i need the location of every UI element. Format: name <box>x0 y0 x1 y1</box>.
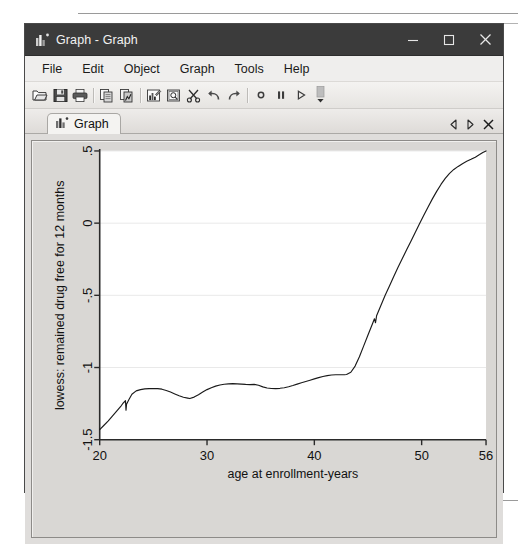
x-tick-label: 30 <box>200 448 214 463</box>
chevron-left-icon[interactable] <box>449 119 458 130</box>
x-axis-ticks <box>100 440 486 445</box>
bar-chart-icon <box>30 33 56 46</box>
y-tick-label: -1.5 <box>80 429 95 451</box>
tab-strip: Graph <box>25 109 503 134</box>
x-tick-label: 50 <box>414 448 428 463</box>
menu-item-object[interactable]: Object <box>114 59 170 79</box>
tab-strip-nav <box>449 119 503 133</box>
window-title: Graph - Graph <box>56 33 395 47</box>
y-axis-tick-labels: .50-.5-1-1.5 <box>80 146 95 451</box>
toolbar-separator-2 <box>140 88 141 103</box>
graph-window: Graph - Graph File Edit Object Graph Too… <box>24 23 504 493</box>
save-icon[interactable] <box>50 85 70 105</box>
minimize-button[interactable] <box>395 24 431 55</box>
menu-item-graph[interactable]: Graph <box>170 59 225 79</box>
menu-item-edit[interactable]: Edit <box>72 59 114 79</box>
title-bar: Graph - Graph <box>25 24 503 56</box>
tab-graph[interactable]: Graph <box>47 113 121 134</box>
menu-item-tools[interactable]: Tools <box>225 59 274 79</box>
undo-icon[interactable] <box>204 85 224 105</box>
toolbar-separator-3 <box>247 88 248 103</box>
record-icon[interactable] <box>251 85 271 105</box>
menu-item-file[interactable]: File <box>32 59 72 79</box>
toolbar-overflow-icon[interactable] <box>311 85 331 105</box>
play-icon[interactable] <box>291 85 311 105</box>
y-tick-label: 0 <box>80 220 95 227</box>
redo-icon[interactable] <box>224 85 244 105</box>
maximize-button[interactable] <box>431 24 467 55</box>
x-tick-label: 56 <box>479 448 493 463</box>
toolbar <box>25 82 503 109</box>
tab-graph-label: Graph <box>74 117 109 131</box>
bar-chart-icon <box>56 117 69 131</box>
preview-icon[interactable] <box>164 85 184 105</box>
lowess-plot: 2030405056 .50-.5-1-1.5 age at enrollmen… <box>32 141 496 537</box>
y-tick-label: .5 <box>80 146 95 157</box>
menu-bar: File Edit Object Graph Tools Help <box>25 56 503 82</box>
copy-icon[interactable] <box>97 85 117 105</box>
y-tick-label: -.5 <box>80 288 95 303</box>
graph-editor-icon[interactable] <box>144 85 164 105</box>
close-button[interactable] <box>467 24 503 55</box>
paste-graph-icon[interactable] <box>117 85 137 105</box>
graph-canvas-frame[interactable]: 2030405056 .50-.5-1-1.5 age at enrollmen… <box>31 140 497 538</box>
close-tab-icon[interactable] <box>483 119 494 130</box>
menu-item-help[interactable]: Help <box>274 59 320 79</box>
page-rule-top-a <box>78 13 518 14</box>
y-axis-label: lowess: remained drug free for 12 months <box>53 181 67 411</box>
x-tick-label: 40 <box>307 448 321 463</box>
cut-icon[interactable] <box>184 85 204 105</box>
pause-icon[interactable] <box>271 85 291 105</box>
x-axis-tick-labels: 2030405056 <box>93 448 494 463</box>
print-icon[interactable] <box>70 85 90 105</box>
graph-client-area: 2030405056 .50-.5-1-1.5 age at enrollmen… <box>25 134 503 544</box>
y-tick-label: -1 <box>80 362 95 374</box>
x-axis-label: age at enrollment-years <box>228 467 359 481</box>
chevron-right-icon[interactable] <box>466 119 475 130</box>
toolbar-separator-1 <box>93 88 94 103</box>
open-icon[interactable] <box>30 85 50 105</box>
